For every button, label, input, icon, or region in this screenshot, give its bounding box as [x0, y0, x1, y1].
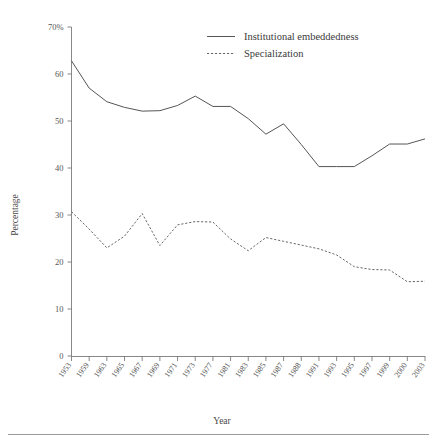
y-tick-label: 70% [48, 22, 64, 32]
x-axis-ticks [72, 356, 426, 361]
figure-container: 010203040506070% 19531959196319651967196… [0, 0, 437, 441]
y-tick-label: 20 [55, 257, 64, 267]
x-tick-label: 1953 [57, 361, 74, 379]
x-tick-label: 1977 [198, 361, 215, 379]
y-tick-label: 30 [55, 210, 64, 220]
x-tick-label: 1985 [251, 361, 268, 379]
x-tick-label: 1959 [74, 361, 91, 379]
x-tick-label: 1999 [375, 361, 392, 379]
series-line-institutional-embeddedness [72, 61, 426, 167]
x-tick-label: 1997 [357, 361, 374, 379]
y-tick-label: 0 [59, 351, 63, 361]
x-tick-label: 2003 [410, 361, 427, 379]
x-tick-label: 1965 [110, 361, 127, 379]
x-tick-label: 1967 [127, 361, 144, 379]
x-axis-tick-labels: 1953195919631965196719691971197319771981… [57, 361, 427, 379]
x-axis-title: Year [213, 416, 231, 426]
y-axis-tick-labels: 010203040506070% [48, 22, 64, 361]
x-tick-label: 1988 [286, 361, 303, 379]
x-tick-label: 1983 [233, 361, 250, 379]
x-tick-label: 1971 [163, 361, 180, 379]
x-tick-label: 1995 [339, 361, 356, 379]
line-chart: 010203040506070% 19531959196319651967196… [0, 0, 437, 441]
x-tick-label: 1969 [145, 361, 162, 379]
x-tick-label: 1963 [92, 361, 109, 379]
x-tick-label: 1987 [269, 361, 286, 379]
legend-label-institutional-embeddedness: Institutional embeddedness [244, 31, 359, 42]
legend-label-specialization: Specialization [244, 48, 304, 59]
chart-legend: Institutional embeddedness Specializatio… [207, 31, 359, 59]
y-tick-label: 10 [55, 304, 64, 314]
y-tick-label: 60 [55, 69, 64, 79]
x-tick-label: 1991 [304, 361, 321, 379]
y-tick-label: 50 [55, 116, 64, 126]
x-tick-label: 2000 [392, 361, 409, 379]
y-axis-title: Percentage [10, 194, 20, 236]
series-line-specialization [72, 212, 426, 282]
x-tick-label: 1981 [216, 361, 233, 379]
x-tick-label: 1973 [180, 361, 197, 379]
y-tick-label: 40 [55, 163, 64, 173]
x-tick-label: 1993 [322, 361, 339, 379]
y-axis-ticks [68, 27, 72, 356]
footer-divider [8, 434, 429, 435]
